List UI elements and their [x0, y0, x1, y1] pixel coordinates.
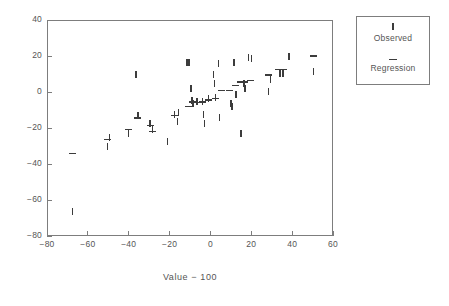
data-point-observed	[268, 88, 269, 95]
data-point-regression	[104, 139, 111, 140]
data-point-observed	[218, 60, 219, 67]
x-tick-label: 0	[194, 239, 226, 249]
data-point-observed	[107, 143, 108, 150]
data-point-regression	[185, 106, 192, 107]
data-point-observed	[190, 85, 191, 92]
y-tick-label: −20	[0, 122, 42, 132]
data-point-regression	[280, 69, 287, 70]
data-point-observed	[177, 118, 178, 125]
data-point-regression	[212, 98, 219, 99]
data-point-observed	[178, 109, 179, 116]
data-point-observed	[282, 70, 283, 77]
data-point-regression	[232, 85, 239, 86]
data-point-observed	[204, 120, 205, 127]
data-point-observed	[279, 70, 280, 77]
data-point-regression	[134, 117, 141, 118]
data-point-observed	[248, 54, 249, 61]
data-point-observed	[233, 59, 234, 66]
legend-entry-observed: Observed	[357, 23, 429, 43]
y-tick-label: −60	[0, 194, 42, 204]
data-point-regression	[310, 55, 317, 56]
data-point-observed	[240, 130, 241, 137]
regression-marker-icon	[389, 59, 397, 60]
x-axis-title: Value − 100	[0, 272, 380, 282]
data-point-observed	[135, 71, 136, 78]
scatter-plot-figure: −80−60−40−2002040−80−60−40−200204060 Val…	[0, 0, 449, 306]
legend: Observed Regression	[356, 16, 430, 85]
x-tick-label: 40	[276, 239, 308, 249]
x-tick-label: 20	[235, 239, 267, 249]
data-point-regression	[199, 101, 206, 102]
data-point-observed	[214, 80, 215, 87]
x-tick-label: −20	[154, 239, 186, 249]
y-tick-label: −40	[0, 158, 42, 168]
observed-marker-icon	[392, 23, 393, 30]
data-point-observed	[288, 53, 289, 60]
data-point-observed	[313, 68, 314, 75]
x-tick-label: −60	[72, 239, 104, 249]
legend-entry-regression: Regression	[357, 56, 429, 73]
data-point-regression	[247, 80, 254, 81]
data-point-observed	[231, 103, 232, 110]
plot-data-area	[47, 20, 333, 236]
data-point-observed	[167, 138, 168, 145]
data-point-observed	[244, 85, 245, 92]
data-point-observed	[213, 71, 214, 78]
data-point-observed	[235, 91, 236, 98]
data-point-regression	[265, 74, 272, 75]
data-point-observed	[270, 76, 271, 83]
x-tick-label: −80	[31, 239, 63, 249]
y-tick-label: 20	[0, 50, 42, 60]
legend-label-regression: Regression	[357, 63, 429, 73]
data-point-regression	[147, 125, 154, 126]
data-point-observed	[251, 55, 252, 62]
y-tick-label: 40	[0, 14, 42, 24]
data-point-regression	[205, 99, 212, 100]
legend-label-observed: Observed	[357, 33, 429, 43]
data-point-observed	[128, 130, 129, 137]
data-point-regression	[125, 129, 132, 130]
data-point-observed	[219, 114, 220, 121]
data-point-regression	[69, 153, 76, 154]
x-tick-label: −40	[113, 239, 145, 249]
data-point-regression	[149, 131, 156, 132]
data-point-regression	[241, 81, 248, 82]
y-tick-label: 0	[0, 86, 42, 96]
data-point-regression	[226, 90, 233, 91]
x-tick-label: 60	[317, 239, 349, 249]
data-point-observed	[188, 59, 189, 66]
data-point-observed	[203, 111, 204, 118]
data-point-regression	[171, 115, 178, 116]
data-point-regression	[218, 90, 225, 91]
data-point-observed	[72, 208, 73, 215]
